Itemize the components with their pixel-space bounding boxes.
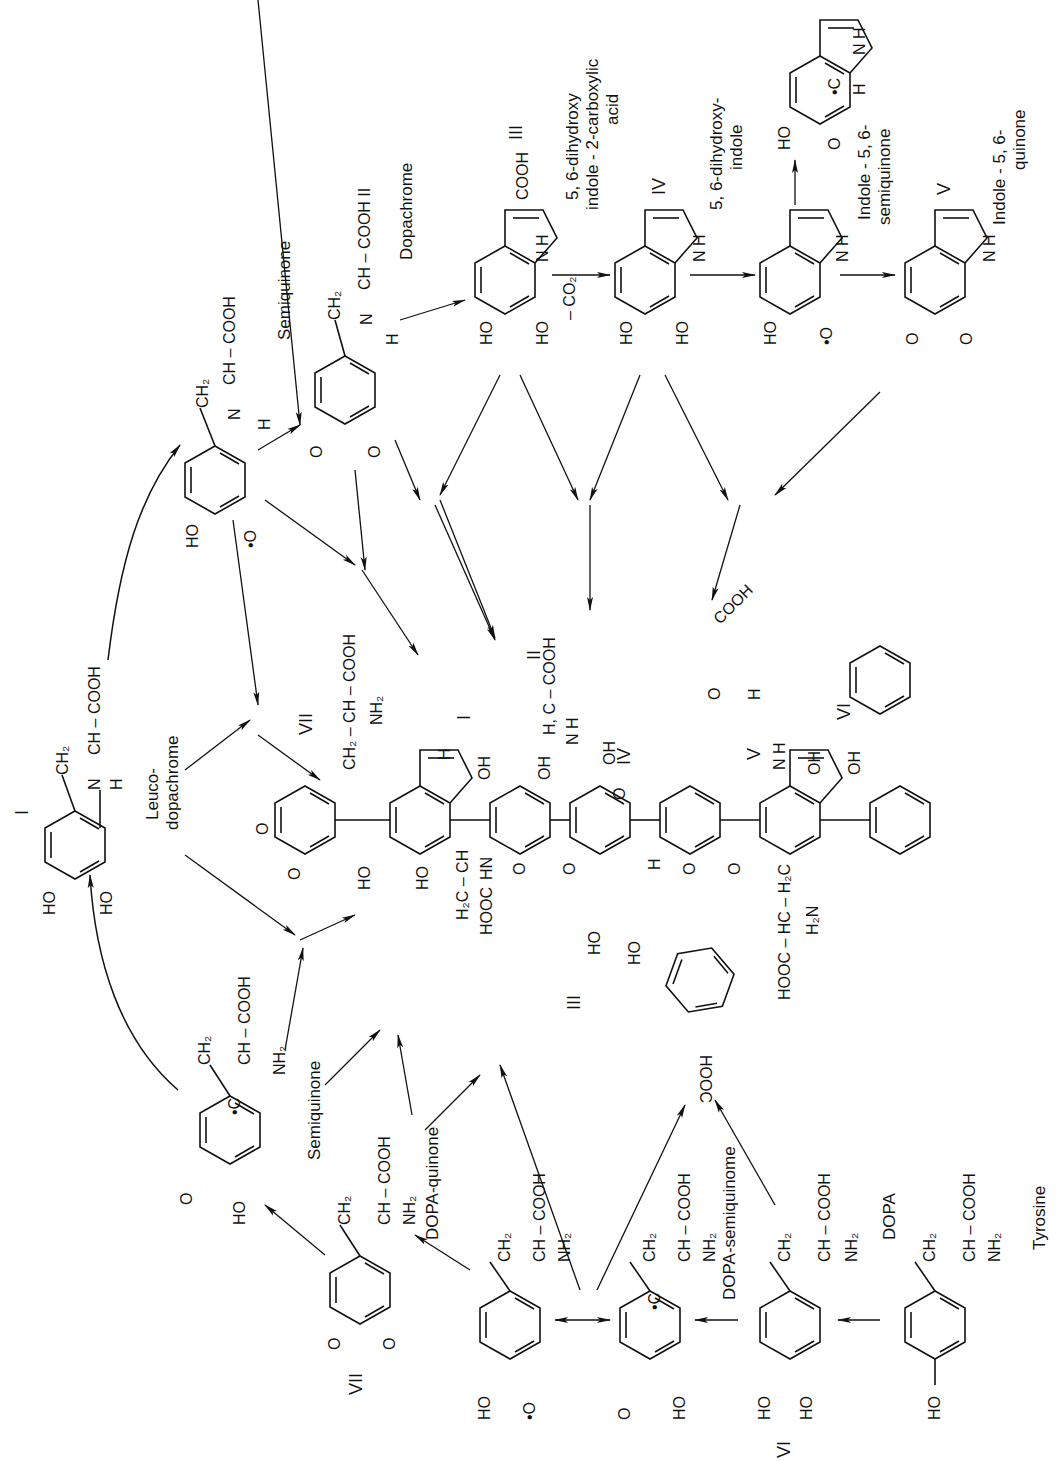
svg-text:•C: •C [826, 78, 843, 95]
svg-text:HOOC: HOOC [697, 1055, 714, 1103]
dopa-structure: CH₂ CH – COOH NH₂ HO HO VI DOPA [756, 1173, 899, 1458]
arrow-to-polymer-vii [258, 735, 320, 780]
arrow-dopachrome-to-polymer [395, 440, 420, 500]
svg-text:N: N [358, 313, 375, 325]
dhica-numeral: III [506, 125, 526, 140]
semiquinone-upper-structure: CH₂ N CH – COOH H HO •O Semiquinone [184, 241, 294, 548]
svg-text:O: O [706, 688, 723, 700]
semiquinone-upper-label: Semiquinone [275, 241, 294, 340]
svg-text:CH₂: CH₂ [326, 291, 343, 320]
arrow-dq-to-polymer-b [425, 1075, 480, 1130]
svg-text:HO: HO [476, 1396, 493, 1420]
dopa-semiquinone-structure: CH₂ CH – COOH NH₂ •C O HO DOPA-semiquino… [616, 1146, 739, 1420]
svg-text:H: H [646, 858, 663, 870]
svg-text:HO: HO [756, 1396, 773, 1420]
svg-text:N: N [226, 408, 243, 420]
svg-text:HO: HO [586, 931, 603, 955]
svg-text:O: O [726, 863, 743, 875]
svg-text:OH: OH [601, 741, 618, 765]
svg-text:NH₂: NH₂ [368, 696, 385, 725]
arrow-leuco-down [185, 855, 295, 935]
svg-text:CH – COOH: CH – COOH [816, 1173, 833, 1262]
indole-quinone-label-1: Indole - 5, 6- [990, 130, 1009, 225]
svg-text:HO: HO [231, 1201, 248, 1225]
svg-text:•O: •O [521, 1402, 538, 1420]
svg-text:CH – COOH: CH – COOH [531, 1173, 548, 1262]
dhica-label-1: 5, 6-dihydroxy [563, 93, 582, 200]
arrow-to-semiquinone-lower [265, 1205, 325, 1255]
svg-text:H₂C – CH: H₂C – CH [454, 850, 471, 920]
dopa-semiquinome-label: DOPA-semiquinome [720, 1146, 739, 1300]
leucodopachrome-structure: I CH₂ N CH – COOH H HO HO Leuco- dopachr… [12, 666, 182, 915]
arrow-dopachrome-to-dhica [400, 300, 465, 320]
tyrosine-structure: HO CH₂ CH – COOH NH₂ Tyrosine [905, 1173, 1049, 1420]
svg-text:O: O [286, 868, 303, 880]
svg-text:H: H [256, 418, 273, 430]
svg-text:CH₂: CH₂ [54, 746, 71, 775]
arrow-leuco-to-semiquinone [108, 445, 180, 660]
svg-text:•O: •O [818, 327, 835, 345]
svg-text:•C: •C [646, 1293, 663, 1310]
dopachrome-label: Dopachrome [397, 163, 416, 260]
dhi-numeral: IV [649, 178, 669, 195]
co2-label: – CO₂ [561, 276, 578, 320]
indolequinone-numeral: V [934, 183, 954, 195]
dhica-label-2: indole - 2-carboxylic [583, 58, 602, 210]
dopa-numeral: VI [774, 1441, 794, 1458]
svg-text:H, C – COOH: H, C – COOH [541, 637, 558, 735]
svg-text:CH₂: CH₂ [196, 1036, 213, 1065]
svg-text:N: N [86, 778, 103, 790]
arrow-dhica-down-b [520, 375, 578, 500]
svg-text:NH₂: NH₂ [401, 1196, 418, 1225]
svg-text:H: H [384, 333, 401, 345]
semiquinone-lower-structure: CH₂ CH – COOH NH₂ •C O HO Semiquinone [178, 976, 324, 1225]
svg-text:VI: VI [834, 703, 854, 720]
svg-text:CH – COOH: CH – COOH [376, 1136, 393, 1225]
melanin-pathway-diagram: HO CH₂ CH – COOH NH₂ Tyrosine CH₂ CH – C… [0, 0, 1057, 1461]
svg-text:VII: VII [296, 713, 316, 735]
svg-text:O: O [958, 333, 975, 345]
svg-text:CH₂: CH₂ [496, 1233, 513, 1262]
svg-text:HO: HO [798, 1396, 815, 1420]
svg-text:O: O [904, 333, 921, 345]
svg-text:O: O [254, 823, 271, 835]
svg-text:H: H [851, 83, 868, 95]
svg-text:O: O [681, 863, 698, 875]
svg-text:•O: •O [242, 530, 259, 548]
dopa-quinone-structure: CH₂ CH – COOH NH₂ O O VII DOPA-quinone [326, 1127, 442, 1395]
svg-text:N H: N H [771, 742, 788, 770]
svg-text:CH₂: CH₂ [776, 1233, 793, 1262]
dopaquinone-numeral: VII [346, 1373, 366, 1395]
svg-text:CH – COOH: CH – COOH [221, 296, 238, 385]
svg-text:H₂N: H₂N [804, 906, 821, 935]
indole-semiquinone-label-1: Indole - 5, 6- [855, 125, 874, 220]
svg-text:N H: N H [691, 234, 708, 262]
eumelanin-polymer: VII I II IV V VI III CH₂ – CH – COOH NH₂… [254, 581, 930, 1103]
tyrosine-nh2: NH₂ [986, 1233, 1003, 1262]
svg-text:N H: N H [534, 234, 551, 262]
dhica-label-3: acid [603, 94, 622, 125]
arrow-to-dopachrome [258, 0, 300, 425]
arrow-left-down [440, 500, 495, 638]
svg-text:O: O [511, 863, 528, 875]
dhi-structure: HO HO N H IV 5, 6-dihydroxy- indole [615, 98, 746, 345]
dopachrome-structure: CH₂ N CH – COOH II H O O Dopachrome [308, 163, 416, 458]
dopa-quinone-label: DOPA-quinone [423, 1127, 442, 1240]
arrow-nh2-to-polymer [285, 948, 303, 1050]
indole-semiquinone-structure: HO •O N H HO O •C H N H Indole - 5, 6- s… [760, 20, 894, 345]
svg-text:HOOC – HC – H₂C: HOOC – HC – H₂C [776, 864, 793, 1000]
arrow-right-down [712, 505, 740, 600]
svg-text:O: O [826, 138, 843, 150]
svg-text:OH: OH [806, 751, 823, 775]
svg-text:CH₂: CH₂ [641, 1233, 658, 1262]
svg-text:N H: N H [851, 27, 868, 55]
svg-text:HO: HO [776, 126, 793, 150]
arrow-dhica-down-a [440, 375, 500, 495]
svg-text:CH – COOH II: CH – COOH II [356, 188, 373, 290]
arrow-dq-to-polymer-a [398, 1035, 412, 1115]
svg-text:HO: HO [534, 321, 551, 345]
svg-text:O: O [308, 446, 325, 458]
svg-text:HO: HO [762, 321, 779, 345]
svg-text:O: O [381, 1338, 398, 1350]
arrow-semi-to-polymer [325, 1030, 380, 1085]
